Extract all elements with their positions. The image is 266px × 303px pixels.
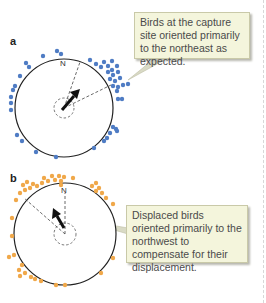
orientation-circle-b — [7, 174, 128, 287]
north-label-b: N — [61, 186, 67, 195]
north-label-a: N — [60, 59, 66, 68]
callout-b: Displaced birds oriented primarily to th… — [126, 205, 248, 263]
callout-a: Birds at the capture site oriented prima… — [134, 12, 250, 59]
